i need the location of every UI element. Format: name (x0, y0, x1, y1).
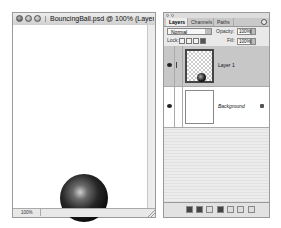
trash-icon[interactable] (248, 206, 255, 213)
layer-row-layer-1[interactable]: Layer 1 (164, 46, 269, 87)
vertical-scrollbar[interactable] (147, 25, 155, 210)
link-layers-icon[interactable] (186, 206, 193, 213)
column-divider (182, 87, 183, 127)
panel-menu-icon[interactable] (261, 19, 267, 25)
document-canvas[interactable] (13, 25, 149, 210)
layers-panel: Layers Channels Paths Normal Opacity: 10… (163, 12, 270, 218)
chevron-down-icon (205, 29, 211, 34)
opacity-slider-toggle[interactable] (251, 28, 256, 35)
column-divider (182, 46, 183, 86)
visibility-eye-icon[interactable] (167, 104, 172, 108)
lock-pixels-icon[interactable] (186, 38, 192, 44)
layer-thumbnail (185, 49, 214, 83)
minimize-button-icon[interactable] (25, 15, 32, 22)
fill-label: Fill: (227, 37, 235, 44)
opacity-input[interactable]: 100% (237, 28, 251, 35)
layer-name[interactable]: Layer 1 (218, 62, 235, 69)
zoom-level-field[interactable]: 100% (13, 209, 41, 216)
tab-layers[interactable]: Layers (166, 18, 188, 26)
lock-transparency-icon[interactable] (179, 38, 185, 44)
panel-minimize-icon[interactable] (171, 14, 174, 17)
title-separator (45, 16, 46, 22)
layer-style-icon[interactable] (196, 206, 203, 213)
panel-close-icon[interactable] (166, 14, 169, 17)
close-button-icon[interactable] (16, 15, 23, 22)
tab-paths[interactable]: Paths (214, 18, 234, 26)
document-title: BouncingBall.psd @ 100% (Layer (50, 14, 154, 24)
thumbnail-ball (197, 73, 206, 82)
zoom-button-icon[interactable] (34, 15, 41, 22)
panel-tabs: Layers Channels Paths (164, 18, 269, 27)
visibility-eye-icon[interactable] (167, 63, 172, 67)
layer-thumbnail (185, 90, 214, 124)
fill-input[interactable]: 100% (237, 38, 251, 45)
layer-row-background[interactable]: Background (164, 87, 269, 128)
adjustment-layer-icon[interactable] (217, 206, 224, 213)
fill-slider-toggle[interactable] (251, 38, 256, 45)
opacity-label: Opacity: (216, 28, 234, 35)
column-divider (174, 46, 175, 86)
blend-mode-select[interactable]: Normal (167, 28, 212, 35)
lock-all-icon[interactable] (200, 38, 206, 44)
new-group-icon[interactable] (227, 206, 234, 213)
blend-mode-value: Normal (171, 29, 187, 35)
column-divider (174, 87, 175, 127)
lock-label: Lock: (167, 37, 179, 44)
add-mask-icon[interactable] (206, 206, 213, 213)
layers-list: Layer 1 Background (164, 46, 269, 203)
status-bar: 100% (13, 208, 155, 217)
brush-icon (176, 62, 181, 68)
lock-icon (260, 104, 264, 108)
tab-channels[interactable]: Channels (188, 18, 214, 26)
layer-name[interactable]: Background (218, 103, 245, 110)
resize-handle-icon[interactable] (148, 210, 155, 217)
panel-bottom-toolbar (164, 202, 269, 217)
lock-position-icon[interactable] (193, 38, 199, 44)
document-window: BouncingBall.psd @ 100% (Layer 100% (12, 12, 156, 218)
new-layer-icon[interactable] (237, 206, 244, 213)
blend-opacity-row: Normal Opacity: 100% (164, 27, 269, 37)
